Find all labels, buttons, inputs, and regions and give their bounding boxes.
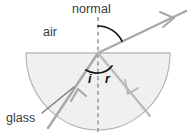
- angle-of-incidence-label: i: [88, 73, 91, 86]
- normal-label: normal: [72, 3, 111, 16]
- glass-label: glass: [6, 112, 35, 125]
- air-label: air: [43, 26, 57, 39]
- angle-arc-emergent: [98, 26, 122, 41]
- angle-of-refraction-label: r: [105, 73, 110, 86]
- refraction-diagram: normal air glass i r: [0, 0, 189, 138]
